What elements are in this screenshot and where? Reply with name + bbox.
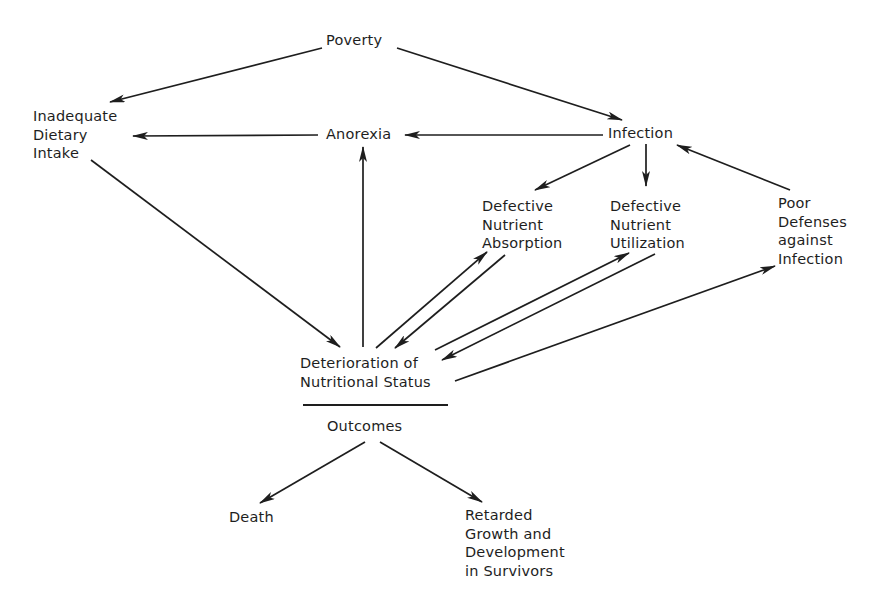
node-poor-defenses-line-3: against (778, 231, 847, 250)
node-infection-label: Infection (608, 124, 673, 143)
node-anorexia: Anorexia (326, 125, 391, 144)
node-deterioration-line-1: Deterioration of (300, 354, 431, 373)
node-inadequate-line-2: Dietary (33, 126, 117, 145)
node-absorption-line-1: Defective (482, 197, 563, 216)
node-retarded-line-4: in Survivors (465, 562, 565, 581)
edge-inadequate-intake-to-deterioration (91, 160, 340, 347)
edge-anorexia-to-inadequate-intake (133, 135, 318, 136)
node-poverty-label: Poverty (326, 31, 382, 50)
node-retarded-line-3: Development (465, 543, 565, 562)
node-inadequate-line-3: Intake (33, 144, 117, 163)
edge-deterioration-to-poor-defenses (455, 266, 775, 381)
node-utilization-line-1: Defective (610, 197, 685, 216)
node-poor-defenses-line-2: Defenses (778, 213, 847, 232)
edge-outcomes-to-retarded-growth (380, 442, 482, 502)
node-inadequate-dietary-intake: Inadequate Dietary Intake (33, 107, 117, 163)
node-death: Death (229, 508, 274, 527)
edge-poor-defenses-to-infection (677, 145, 790, 190)
node-deterioration-line-2: Nutritional Status (300, 373, 431, 392)
node-absorption-line-3: Absorption (482, 234, 563, 253)
node-anorexia-label: Anorexia (326, 125, 391, 144)
node-poor-defenses-against-infection: Poor Defenses against Infection (778, 194, 847, 268)
node-retarded-line-1: Retarded (465, 506, 565, 525)
node-defective-nutrient-absorption: Defective Nutrient Absorption (482, 197, 563, 253)
malnutrition-infection-cycle-diagram: Poverty Inadequate Dietary Intake Anorex… (0, 0, 887, 603)
node-death-label: Death (229, 508, 274, 527)
edge-poverty-to-infection (397, 48, 622, 120)
edge-poverty-to-inadequate-intake (110, 48, 322, 102)
node-inadequate-line-1: Inadequate (33, 107, 117, 126)
edge-infection-to-absorption (535, 145, 630, 190)
node-utilization-line-2: Nutrient (610, 216, 685, 235)
node-outcomes-label: Outcomes (327, 417, 402, 436)
node-absorption-line-2: Nutrient (482, 216, 563, 235)
node-deterioration-of-nutritional-status: Deterioration of Nutritional Status (300, 354, 431, 391)
node-infection: Infection (608, 124, 673, 143)
edge-utilization-to-deterioration (442, 254, 655, 360)
diagram-connectors (0, 0, 887, 603)
node-retarded-growth: Retarded Growth and Development in Survi… (465, 506, 565, 580)
node-poverty: Poverty (326, 31, 382, 50)
node-utilization-line-3: Utilization (610, 234, 685, 253)
node-poor-defenses-line-4: Infection (778, 250, 847, 269)
node-defective-nutrient-utilization: Defective Nutrient Utilization (610, 197, 685, 253)
edge-deterioration-to-utilization (435, 253, 629, 350)
node-poor-defenses-line-1: Poor (778, 194, 847, 213)
node-retarded-line-2: Growth and (465, 525, 565, 544)
node-outcomes: Outcomes (327, 417, 402, 436)
edge-outcomes-to-death (260, 442, 365, 503)
edge-absorption-to-deterioration (395, 255, 505, 348)
edge-deterioration-to-absorption (376, 252, 487, 348)
